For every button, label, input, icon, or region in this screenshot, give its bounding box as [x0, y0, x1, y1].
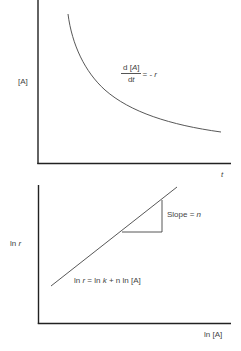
r-var: r [18, 239, 21, 248]
diagram-canvas [0, 0, 241, 351]
rhs-text: = - [142, 70, 154, 79]
slope-prefix: Slope = [167, 210, 197, 219]
log-linear-line [51, 187, 177, 286]
num-suffix: ] [137, 63, 139, 72]
fraction-denominator: dt [128, 74, 135, 84]
equation-rhs: = - r [142, 70, 156, 79]
slope-triangle [122, 200, 162, 232]
rate-fraction: d [A] dt [121, 64, 141, 84]
rhs-var: r [154, 70, 157, 79]
top-x-axis-label: t [221, 171, 223, 179]
bottom-x-axis-label: ln [A] [204, 331, 222, 339]
bottom-y-axis-label: ln r [10, 240, 21, 248]
den-var: t [132, 75, 134, 84]
log-equation: ln r = ln k + n ln [A] [74, 277, 141, 285]
slope-label: Slope = n [167, 211, 201, 219]
fraction-numerator: d [A] [121, 64, 141, 74]
eq-part3: + n ln [A] [107, 276, 141, 285]
slope-var: n [197, 210, 201, 219]
num-prefix: d [ [123, 63, 132, 72]
rate-equation: d [A] dt = - r [121, 64, 157, 84]
top-y-axis-label: [A] [18, 78, 28, 86]
eq-part2: = ln [85, 276, 103, 285]
